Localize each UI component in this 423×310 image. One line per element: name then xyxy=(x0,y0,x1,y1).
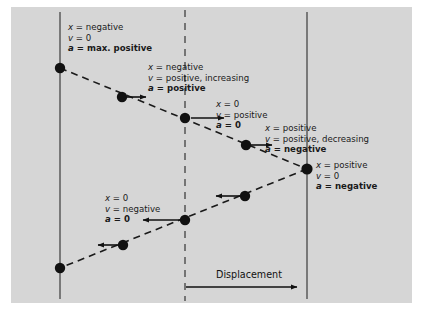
annotation-v-line: v = 0 xyxy=(316,171,377,182)
annotation-state-right-extreme: x = positive v = 0 a = negative xyxy=(316,160,377,192)
position-dot-origin-return xyxy=(180,215,190,225)
annotation-a-line: a = 0 xyxy=(216,120,267,131)
annotation-x-line: x = positive xyxy=(316,160,377,171)
annotation-v-line: v = 0 xyxy=(68,33,152,44)
annotation-v-line: v = positive, increasing xyxy=(148,73,249,84)
position-dot-left-extreme-bottom xyxy=(55,263,65,273)
annotation-state-left-extreme: x = negative v = 0 a = max. positive xyxy=(68,22,152,54)
annotation-v-line: v = positive, decreasing xyxy=(265,134,369,145)
annotation-a-line: a = positive xyxy=(148,83,249,94)
displacement-axis-label: Displacement xyxy=(216,269,282,280)
position-dot-right-extreme xyxy=(301,163,312,174)
position-dot-outbound-1 xyxy=(117,92,127,102)
annotation-v-line: v = negative xyxy=(105,204,160,215)
annotation-a-line: a = negative xyxy=(265,144,369,155)
annotation-a-line: a = max. positive xyxy=(68,43,152,54)
annotation-x-line: x = positive xyxy=(265,123,369,134)
diagram-canvas xyxy=(0,0,423,310)
annotation-state-moving-right-decelerating: x = positive v = positive, decreasing a … xyxy=(265,123,369,155)
annotation-state-moving-right-accelerating: x = negative v = positive, increasing a … xyxy=(148,62,249,94)
annotation-state-origin-max-speed-left: x = 0 v = negative a = 0 xyxy=(105,193,160,225)
position-dot-return-1 xyxy=(240,191,250,201)
annotation-a-line: a = negative xyxy=(316,181,377,192)
annotation-x-line: x = negative xyxy=(148,62,249,73)
annotation-x-line: x = 0 xyxy=(216,99,267,110)
annotation-a-line: a = 0 xyxy=(105,214,160,225)
annotation-x-line: x = 0 xyxy=(105,193,160,204)
position-dot-origin-outbound xyxy=(180,113,190,123)
position-dot-left-extreme-top xyxy=(55,63,65,73)
position-dot-outbound-2 xyxy=(241,140,251,150)
position-dot-return-2 xyxy=(118,240,128,250)
annotation-state-origin-max-speed-right: x = 0 v = positive a = 0 xyxy=(216,99,267,131)
annotation-v-line: v = positive xyxy=(216,110,267,121)
annotation-x-line: x = negative xyxy=(68,22,152,33)
